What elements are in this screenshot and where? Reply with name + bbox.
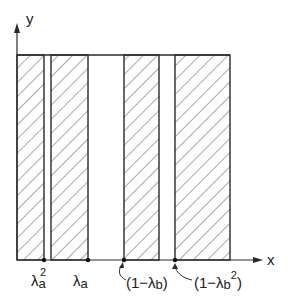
y-axis-arrow-icon [14, 23, 20, 33]
marker-dot-one-minus-lambda-b [122, 258, 126, 262]
x-axis-arrow-icon [253, 257, 263, 263]
pointer-arrowhead-icon [119, 262, 124, 268]
marker-dot-one-minus-lambda-b-squared [173, 258, 177, 262]
pointer-arrowhead-icon-2 [172, 263, 178, 269]
marker-dot-lambda-a-squared [42, 258, 46, 262]
hatched-strip-1 [17, 55, 44, 260]
hatched-strip-3 [124, 55, 159, 260]
marker-dot-lambda-a [86, 258, 90, 262]
tick-label-one-minus-lambda-b-squared: (1−λb2) [194, 269, 242, 292]
hatched-strip-2 [51, 55, 88, 260]
tick-label-one-minus-lambda-b: (1−λb) [126, 274, 168, 292]
x-axis-label: x [267, 251, 275, 268]
strip-diagram: y x λa 2 λa (1−λb) (1−λb2) [0, 0, 288, 302]
tick-label-lambda-a: λa [73, 272, 89, 291]
hatched-strip-4 [175, 55, 230, 260]
tick-label-lambda-a-squared-sup: 2 [40, 266, 46, 278]
hatched-strips [17, 55, 230, 260]
y-axis-label: y [26, 10, 34, 27]
